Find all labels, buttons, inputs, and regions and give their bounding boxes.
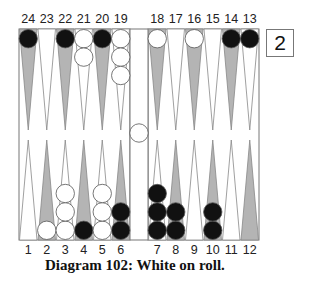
- point-label-6: 6: [117, 243, 124, 257]
- point-label-7: 7: [154, 243, 161, 257]
- white-checker[interactable]: [148, 30, 166, 48]
- black-checker[interactable]: [148, 221, 166, 239]
- point-label-18: 18: [150, 12, 164, 26]
- point-label-24: 24: [21, 12, 35, 26]
- black-checker[interactable]: [93, 30, 111, 48]
- point-label-5: 5: [99, 243, 106, 257]
- point-label-8: 8: [172, 243, 179, 257]
- black-checker[interactable]: [112, 221, 130, 239]
- white-checker[interactable]: [56, 184, 74, 202]
- diagram-caption: Diagram 102: White on roll.: [0, 257, 309, 274]
- black-checker[interactable]: [148, 184, 166, 202]
- black-checker[interactable]: [148, 203, 166, 221]
- white-checker[interactable]: [185, 30, 203, 48]
- point-label-17: 17: [169, 12, 183, 26]
- point-label-1: 1: [25, 243, 32, 257]
- point-label-12: 12: [243, 243, 257, 257]
- point-label-23: 23: [40, 12, 54, 26]
- white-checker-on-bar[interactable]: [130, 124, 148, 142]
- point-label-10: 10: [206, 243, 220, 257]
- black-checker[interactable]: [167, 221, 185, 239]
- white-checker[interactable]: [93, 203, 111, 221]
- white-checker[interactable]: [38, 221, 56, 239]
- point-label-11: 11: [225, 243, 238, 257]
- backgammon-board: 242322212019181716151413 123456789101112: [0, 0, 309, 285]
- white-checker[interactable]: [112, 30, 130, 48]
- white-checker[interactable]: [75, 30, 93, 48]
- point-label-2: 2: [43, 243, 50, 257]
- point-label-16: 16: [187, 12, 201, 26]
- black-checker[interactable]: [56, 30, 74, 48]
- black-checker[interactable]: [204, 221, 222, 239]
- black-checker[interactable]: [19, 30, 37, 48]
- point-label-15: 15: [206, 12, 220, 26]
- white-checker[interactable]: [112, 48, 130, 66]
- black-checker[interactable]: [75, 221, 93, 239]
- bottom-point-labels: 123456789101112: [25, 243, 257, 257]
- point-label-3: 3: [62, 243, 69, 257]
- white-checker[interactable]: [93, 221, 111, 239]
- point-label-13: 13: [243, 12, 257, 26]
- doubling-cube[interactable]: 2: [266, 29, 294, 57]
- white-checker[interactable]: [56, 221, 74, 239]
- top-point-labels: 242322212019181716151413: [21, 12, 256, 26]
- point-label-14: 14: [224, 12, 238, 26]
- point-label-20: 20: [95, 12, 109, 26]
- white-checker[interactable]: [112, 66, 130, 84]
- point-label-4: 4: [80, 243, 87, 257]
- black-checker[interactable]: [241, 30, 259, 48]
- black-checker[interactable]: [204, 203, 222, 221]
- point-label-22: 22: [58, 12, 72, 26]
- white-checker[interactable]: [75, 48, 93, 66]
- point-label-9: 9: [191, 243, 198, 257]
- white-checker[interactable]: [56, 203, 74, 221]
- black-checker[interactable]: [222, 30, 240, 48]
- point-label-21: 21: [77, 12, 91, 26]
- white-checker[interactable]: [93, 184, 111, 202]
- black-checker[interactable]: [167, 203, 185, 221]
- point-label-19: 19: [114, 12, 128, 26]
- black-checker[interactable]: [112, 203, 130, 221]
